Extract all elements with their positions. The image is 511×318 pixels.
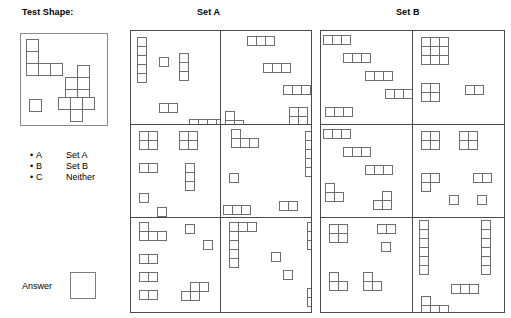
- bullet-icon: •: [28, 150, 35, 161]
- legend-row-c: •CNeither: [28, 172, 128, 183]
- polyomino-cell: [148, 272, 158, 282]
- polyomino-cell: [383, 165, 393, 175]
- polyomino-cell: [421, 182, 431, 192]
- polyomino-cell: [283, 270, 293, 280]
- puzzle-canvas: Test Shape: Set A Set B •ASet A•BSet B•C…: [0, 0, 511, 318]
- legend-key: C: [36, 172, 43, 183]
- polyomino-cell: [148, 290, 158, 300]
- test-shape-panel: [20, 33, 108, 126]
- polyomino-cell: [157, 231, 167, 241]
- test-shape-heading: Test Shape:: [22, 7, 73, 17]
- set-b-cell-3: [321, 125, 413, 219]
- polyomino-cell: [139, 193, 149, 203]
- polyomino-cell: [430, 140, 440, 150]
- polyomino-cell: [301, 85, 311, 95]
- set-a-cell-6: [221, 218, 311, 312]
- set-a-grid: [130, 30, 312, 313]
- polyomino-cell: [50, 63, 63, 76]
- polyomino-cell: [203, 240, 213, 250]
- bullet-icon: •: [28, 172, 35, 183]
- set-a-cell-1: [131, 31, 221, 125]
- set-b-heading: Set B: [396, 7, 420, 17]
- polyomino-cell: [265, 36, 275, 46]
- polyomino-cell: [439, 55, 449, 65]
- polyomino-cell: [403, 89, 413, 99]
- polyomino-cell: [430, 173, 440, 183]
- polyomino-cell: [199, 282, 209, 292]
- set-b-cell-6: [413, 218, 505, 312]
- legend-value: Set B: [66, 161, 88, 172]
- answer-label: Answer: [22, 281, 52, 291]
- polyomino-cell: [157, 207, 167, 217]
- polyomino-cell: [70, 109, 83, 122]
- polyomino-cell: [338, 233, 348, 243]
- polyomino-cell: [468, 140, 478, 150]
- legend-key: B: [36, 161, 42, 172]
- set-b-cell-4: [413, 125, 505, 219]
- polyomino-cell: [159, 57, 169, 67]
- polyomino-cell: [338, 281, 348, 291]
- polyomino-cell: [419, 265, 429, 275]
- polyomino-cell: [477, 195, 487, 205]
- polyomino-cell: [381, 242, 391, 252]
- set-a-cell-4: [221, 125, 311, 219]
- polyomino-cell: [449, 195, 459, 205]
- legend-value: Set A: [66, 150, 88, 161]
- polyomino-cell: [229, 173, 239, 183]
- polyomino-cell: [307, 240, 311, 250]
- polyomino-cell: [430, 92, 440, 102]
- polyomino-cell: [383, 71, 393, 81]
- polyomino-cell: [305, 167, 311, 177]
- polyomino-cell: [188, 140, 198, 150]
- set-a-cell-3: [131, 125, 221, 219]
- polyomino-cell: [372, 281, 382, 291]
- polyomino-cell: [361, 147, 371, 157]
- polyomino-cell: [298, 116, 308, 125]
- set-a-heading: Set A: [197, 7, 220, 17]
- answer-input-box[interactable]: [70, 272, 96, 299]
- polyomino-cell: [439, 305, 449, 312]
- polyomino-cell: [148, 140, 158, 150]
- polyomino-cell: [341, 129, 351, 139]
- polyomino-cell: [341, 35, 351, 45]
- set-a-cell-5: [131, 218, 221, 312]
- polyomino-cell: [288, 201, 298, 211]
- polyomino-cell: [343, 107, 353, 117]
- set-a-cell-2: [221, 31, 311, 125]
- legend-key: A: [36, 150, 42, 161]
- polyomino-cell: [386, 224, 396, 234]
- set-b-cell-1: [321, 31, 413, 125]
- polyomino-cell: [361, 53, 371, 63]
- polyomino-cell: [271, 252, 281, 262]
- polyomino-cell: [482, 173, 492, 183]
- polyomino-cell: [185, 181, 195, 191]
- polyomino-cell: [382, 200, 392, 210]
- polyomino-cell: [334, 192, 344, 202]
- polyomino-cell: [190, 291, 200, 301]
- set-b-cell-5: [321, 218, 413, 312]
- legend-value: Neither: [66, 172, 95, 183]
- polyomino-cell: [249, 138, 259, 148]
- legend: •ASet A•BSet B•CNeither: [28, 150, 128, 183]
- polyomino-cell: [469, 284, 479, 294]
- set-b-cell-2: [413, 31, 505, 125]
- polyomino-cell: [148, 163, 158, 173]
- polyomino-cell: [281, 63, 291, 73]
- set-b-grid: [320, 30, 505, 313]
- polyomino-cell: [179, 71, 189, 81]
- polyomino-cell: [241, 205, 251, 215]
- answer-value: [71, 273, 95, 298]
- legend-row-a: •ASet A: [28, 150, 128, 161]
- bullet-icon: •: [28, 161, 35, 172]
- polyomino-cell: [29, 99, 42, 112]
- polyomino-cell: [137, 73, 147, 83]
- polyomino-cell: [247, 222, 257, 232]
- polyomino-cell: [185, 224, 195, 234]
- polyomino-cell: [229, 258, 239, 268]
- polyomino-cell: [148, 254, 158, 264]
- polyomino-cell: [474, 85, 484, 95]
- legend-row-b: •BSet B: [28, 161, 128, 172]
- polyomino-cell: [168, 103, 178, 113]
- polyomino-cell: [481, 265, 491, 275]
- polyomino-cell: [82, 97, 95, 110]
